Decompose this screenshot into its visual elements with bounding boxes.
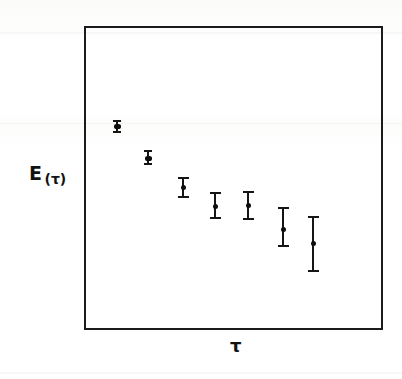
error-bar-cap-top <box>210 192 221 194</box>
scan-streak <box>0 372 402 374</box>
data-marker <box>213 204 218 209</box>
error-bar-cap-bottom <box>210 217 221 219</box>
data-marker <box>145 156 152 161</box>
data-point-3 <box>175 177 191 198</box>
data-marker <box>281 227 286 232</box>
error-bar-cap-top <box>308 216 319 218</box>
error-bar-cap-top <box>113 120 121 122</box>
data-marker <box>114 124 121 129</box>
error-bar-cap-bottom <box>144 163 152 165</box>
error-bar-cap-top <box>243 191 254 193</box>
data-point-7 <box>305 216 321 272</box>
error-bar-cap-top <box>144 150 152 152</box>
y-axis-label-subscript: (τ) <box>44 171 66 187</box>
y-axis-label-main: E <box>29 162 42 184</box>
data-marker <box>246 203 251 208</box>
data-point-4 <box>207 192 223 219</box>
error-bar-cap-bottom <box>113 131 121 133</box>
data-marker <box>181 185 186 190</box>
data-marker <box>311 241 316 246</box>
error-bar-cap-bottom <box>308 270 319 272</box>
x-axis-label: τ <box>230 337 242 355</box>
data-point-1 <box>109 120 125 133</box>
error-bar-cap-bottom <box>243 218 254 220</box>
error-bar-cap-bottom <box>278 245 289 247</box>
error-bar-cap-top <box>178 177 189 179</box>
error-bar-cap-bottom <box>178 196 189 198</box>
data-point-6 <box>275 207 291 247</box>
plot-frame <box>84 26 383 330</box>
y-axis-label: E(τ) <box>29 164 64 183</box>
error-bar-cap-top <box>278 207 289 209</box>
data-point-5 <box>240 191 256 220</box>
data-point-2 <box>140 150 156 165</box>
